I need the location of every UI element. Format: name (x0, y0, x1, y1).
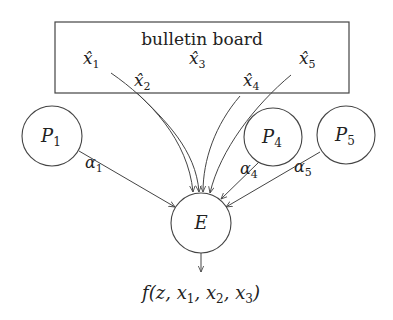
board-entry-x4: x̂4 (243, 70, 260, 93)
svg-text:x̂1: x̂1 (83, 48, 100, 71)
board-entry-x5: x̂5 (299, 48, 316, 71)
edge-x2-to-E (137, 93, 199, 192)
evaluator-E-label: E (193, 212, 207, 233)
svg-text:x̂3: x̂3 (189, 48, 206, 71)
edge-label-alpha5: α5 (294, 157, 312, 179)
board-entry-x3: x̂3 (189, 48, 206, 71)
edge-x4-to-E (203, 96, 240, 192)
party-P5-label: P5 (334, 124, 355, 148)
diagram-canvas: bulletin board x̂1 x̂2 x̂3 x̂4 x̂5 P1 α1… (0, 0, 393, 320)
edge-label-alpha4: α4 (240, 159, 258, 181)
board-entry-x2: x̂2 (134, 70, 151, 93)
svg-text:x̂5: x̂5 (299, 48, 316, 71)
bulletin-board-title: bulletin board (141, 29, 263, 49)
party-P1-label: P1 (40, 125, 61, 149)
edge-x1-to-E (111, 73, 193, 192)
svg-text:x̂4: x̂4 (243, 70, 260, 93)
party-P4-label: P4 (261, 126, 282, 150)
svg-text:x̂2: x̂2 (134, 70, 151, 93)
board-entry-x1: x̂1 (83, 48, 100, 71)
output-function-label: f(z, x1, x2, x3) (140, 282, 260, 306)
edge-label-alpha1: α1 (85, 153, 103, 175)
